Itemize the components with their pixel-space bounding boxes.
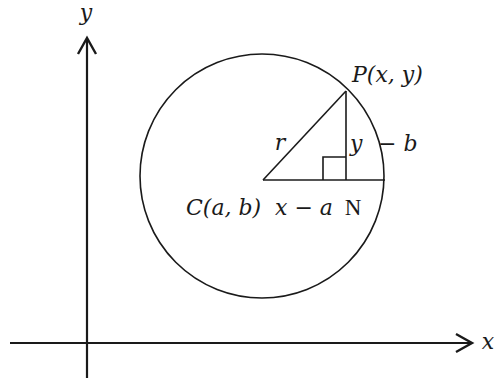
point-N-label: N [345, 195, 362, 220]
center-C-label: C(a, b) [186, 195, 261, 220]
vertical-label-y: y [349, 131, 363, 156]
right-angle-marker-icon [323, 157, 346, 180]
circle-equation-diagram: y x P(x, y) r y − b C(a, b) x − a N [0, 0, 498, 391]
radius-label: r [275, 130, 287, 155]
x-axis: x [10, 329, 495, 354]
point-P-label: P(x, y) [351, 62, 423, 87]
y-axis-label: y [79, 0, 93, 25]
x-axis-label: x [482, 329, 495, 354]
y-axis: y [78, 0, 96, 378]
circle [140, 54, 384, 298]
vertical-label-minus-b: − b [378, 131, 418, 156]
horizontal-label: x − a [275, 195, 333, 220]
